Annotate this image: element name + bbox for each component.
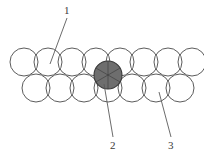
- callout-label-2: 2: [110, 140, 116, 151]
- lattice-diagram-canvas: [0, 0, 204, 160]
- callout-label-1: 1: [64, 5, 70, 16]
- leader-line-2: [104, 84, 113, 137]
- lattice-diagram-figure: 1 2 3: [0, 0, 204, 160]
- callout-label-3: 3: [168, 140, 174, 151]
- interstitial-sphere: [94, 61, 122, 89]
